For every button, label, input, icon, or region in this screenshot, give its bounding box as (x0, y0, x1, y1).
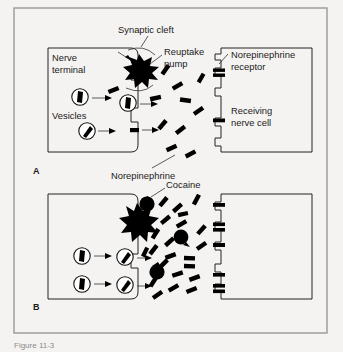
receptor-bound-b-5 (213, 273, 225, 277)
receptor-bound-b-4 (213, 243, 225, 247)
vesicle-a-1 (72, 89, 88, 105)
receptor-bound-a-2 (213, 74, 225, 77)
receptor-bound-b-7 (213, 290, 225, 294)
receptor-bound-a-1 (213, 69, 225, 72)
receptor-bound-b-3 (213, 228, 225, 232)
figure-caption: Figure 11-3 (14, 341, 55, 350)
neurotransmission-diagram: Synaptic cleft Nerve terminal Reuptake p… (0, 0, 343, 352)
label-cocaine: Cocaine (166, 179, 200, 190)
panel-letter-b: B (33, 302, 40, 312)
label-receiving-nerve-cell-line2: nerve cell (231, 117, 271, 128)
vesicle-b-4 (117, 277, 133, 293)
receptor-bound-b-6 (213, 284, 225, 288)
label-receiving-nerve-cell-line1: Receiving (231, 105, 272, 116)
vesicle-b-2 (117, 249, 133, 265)
label-reuptake-pump-line1: Reuptake (164, 46, 204, 57)
vesicle-release-a (130, 128, 139, 132)
vesicle-b-3 (74, 276, 90, 292)
receptor-bound-a-3 (213, 119, 225, 123)
label-norepinephrine-receptor-line1: Norepinephrine (231, 49, 295, 60)
vesicle-a-3 (79, 123, 95, 139)
vesicle-b-1 (74, 248, 90, 264)
receptor-bound-b-1 (213, 203, 225, 207)
label-reuptake-pump-line2: pump (164, 58, 187, 69)
label-vesicles: Vesicles (52, 110, 87, 121)
vesicle-a-2 (120, 95, 136, 111)
receptor-bound-b-2 (213, 223, 225, 227)
figure-container: Synaptic cleft Nerve terminal Reuptake p… (0, 0, 343, 352)
label-norepinephrine-receptor-line2: receptor (231, 61, 265, 72)
cocaine-blob-2 (174, 230, 189, 245)
label-nerve-terminal-line2: terminal (52, 64, 85, 75)
label-synaptic-cleft: Synaptic cleft (118, 24, 174, 35)
label-nerve-terminal-line1: Nerve (52, 52, 77, 63)
panel-letter-a: A (33, 166, 40, 176)
